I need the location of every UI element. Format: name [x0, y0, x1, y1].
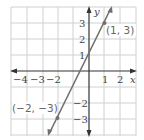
y-axis-label: y [93, 6, 100, 17]
y-tick-neg2: −2 [73, 98, 88, 109]
x-tick-neg3: −3 [30, 74, 45, 85]
point-neg2-neg3 [56, 116, 60, 120]
x-tick-neg4: −4 [13, 74, 28, 85]
y-axis-down-arrow-icon [87, 130, 92, 137]
y-tick-neg3: −3 [73, 114, 88, 125]
x-axis-label: x [130, 74, 136, 85]
point-label-neg2-neg3: (−2, −3) [12, 102, 58, 114]
x-tick-1: 1 [102, 74, 108, 85]
y-tick-1: 1 [79, 50, 85, 61]
y-tick-2: 2 [79, 34, 85, 45]
coordinate-graph: −4 −3 −2 1 2 x 3 2 1 −2 −3 y (1, 3) (−2,… [0, 0, 144, 140]
x-tick-neg2: −2 [46, 74, 61, 85]
y-tick-3: 3 [79, 18, 85, 29]
point-label-1-3: (1, 3) [106, 24, 134, 36]
x-tick-2: 2 [117, 74, 123, 85]
